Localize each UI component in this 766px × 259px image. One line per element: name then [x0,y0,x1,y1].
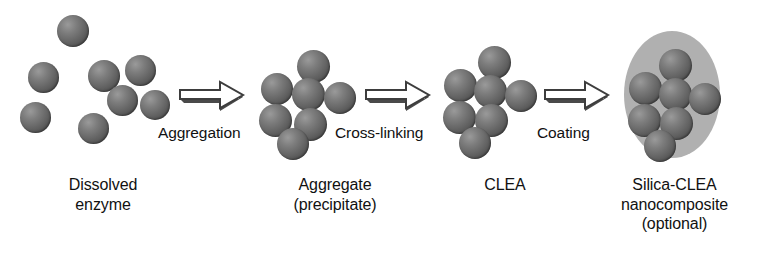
arrow-label-crosslinking-arrow: Cross-linking [335,124,423,142]
enzyme-sphere [644,130,676,162]
block-arrow-icon [362,78,434,116]
stage-label-aggregate: Aggregate (precipitate) [255,175,415,214]
enzyme-sphere [292,78,325,111]
enzyme-sphere [140,90,170,120]
enzyme-sphere [28,62,59,93]
enzyme-sphere [444,69,477,102]
stage-label-dissolved-enzyme: Dissolved enzyme [28,175,178,214]
enzyme-sphere [78,113,109,144]
enzyme-sphere [125,55,156,86]
enzyme-sphere [689,83,721,115]
enzyme-sphere [629,72,662,105]
block-arrow-icon [541,78,613,116]
enzyme-sphere [324,82,356,114]
enzyme-sphere [57,15,89,47]
crosslinking-arrow [362,78,434,116]
enzyme-sphere [505,80,537,112]
stage-label-clea: CLEA [440,175,570,195]
diagram-canvas: Dissolved enzymeAggregate (precipitate)C… [0,0,766,259]
arrow-label-aggregation-arrow: Aggregation [158,124,241,142]
block-arrow-icon [176,78,248,116]
enzyme-sphere [277,128,309,160]
arrow-label-coating-arrow: Coating [537,124,590,142]
aggregation-arrow [176,78,248,116]
enzyme-sphere [459,127,491,159]
enzyme-sphere [107,85,138,116]
enzyme-sphere [478,46,511,79]
enzyme-sphere [20,102,51,133]
enzyme-sphere [261,73,293,105]
stage-label-silica-clea: Silica-CLEA nanocomposite (optional) [592,175,757,234]
coating-arrow [541,78,613,116]
enzyme-immobilization-diagram: { "diagram": { "title": "CLEA preparatio… [0,0,766,259]
